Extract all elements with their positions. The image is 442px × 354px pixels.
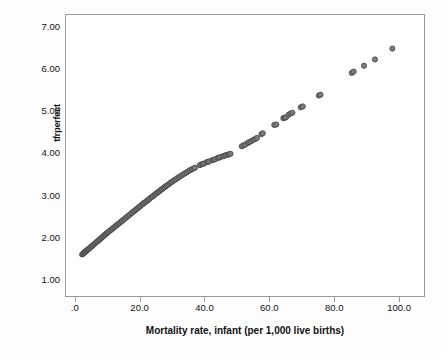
x-axis-tick-label: 20.0 bbox=[117, 302, 163, 313]
x-axis-tick-mark bbox=[334, 297, 335, 302]
x-axis-tick-label: 80.0 bbox=[311, 302, 357, 313]
y-axis-tick-label: 5.00 bbox=[26, 105, 60, 116]
data-points-layer bbox=[66, 15, 424, 296]
data-point bbox=[254, 135, 259, 140]
data-point bbox=[228, 151, 233, 156]
x-axis-tick-label: 100.0 bbox=[376, 302, 422, 313]
data-point bbox=[390, 46, 395, 51]
data-point bbox=[192, 165, 197, 170]
y-axis-tick-label: 3.00 bbox=[26, 190, 60, 201]
y-axis-tick-label: 7.00 bbox=[26, 21, 60, 32]
data-point bbox=[260, 131, 265, 136]
x-axis-title: Mortality rate, infant (per 1,000 live b… bbox=[65, 325, 425, 336]
data-point bbox=[300, 104, 305, 109]
x-axis-tick-mark bbox=[140, 297, 141, 302]
scatter-chart: tfrperfect 1.002.003.004.005.006.007.00 … bbox=[0, 0, 442, 354]
x-axis-tick-label: .0 bbox=[52, 302, 98, 313]
data-point bbox=[361, 63, 366, 68]
x-axis-tick-mark bbox=[204, 297, 205, 302]
x-axis-tick-label: 60.0 bbox=[246, 302, 292, 313]
y-axis-tick-labels: 1.002.003.004.005.006.007.00 bbox=[24, 0, 60, 354]
x-axis-tick-mark bbox=[75, 297, 76, 302]
y-axis-tick-label: 6.00 bbox=[26, 63, 60, 74]
data-point bbox=[290, 110, 295, 115]
data-point bbox=[372, 57, 377, 62]
x-axis-tick-mark bbox=[269, 297, 270, 302]
x-axis-tick-mark bbox=[399, 297, 400, 302]
x-axis-tick-label: 40.0 bbox=[181, 302, 227, 313]
y-axis-tick-label: 1.00 bbox=[26, 274, 60, 285]
plot-area bbox=[65, 14, 425, 297]
data-point bbox=[351, 69, 356, 74]
data-point bbox=[318, 92, 323, 97]
data-point bbox=[274, 122, 279, 127]
y-axis-tick-label: 4.00 bbox=[26, 147, 60, 158]
y-axis-tick-label: 2.00 bbox=[26, 232, 60, 243]
